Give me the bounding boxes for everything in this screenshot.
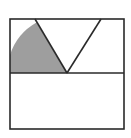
v-right-line [67, 19, 101, 73]
shaded-sector [10, 23, 67, 74]
geometry-diagram [0, 0, 131, 138]
